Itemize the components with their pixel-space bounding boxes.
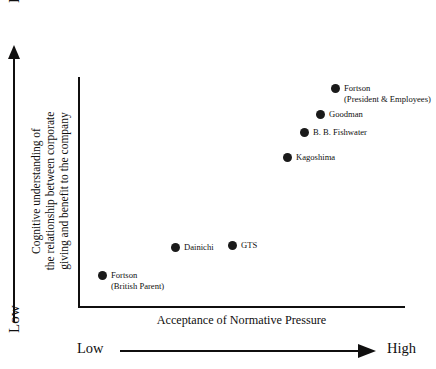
data-point-label: Goodman — [329, 109, 363, 120]
horizontal-scale-arrow-shaft — [120, 350, 360, 352]
data-point-fortson-president[interactable]: Fortson (President & Employees) — [331, 83, 431, 104]
data-point-label: Kagoshima — [296, 152, 335, 163]
data-point-kagoshima[interactable]: Kagoshima — [283, 152, 335, 163]
data-point-label: GTS — [241, 240, 257, 251]
data-point-label: Fortson (British Parent) — [111, 270, 164, 291]
horizontal-scale-low-label: Low — [77, 340, 104, 357]
data-point-label-line-1: Fortson — [111, 270, 137, 280]
marker-dot — [283, 153, 292, 162]
marker-dot — [98, 271, 107, 280]
data-point-label-line-1: Fortson — [344, 83, 370, 93]
data-point-fortson-british-parent[interactable]: Fortson (British Parent) — [98, 270, 164, 291]
data-point-label: Fortson (President & Employees) — [344, 83, 431, 104]
data-point-label-line-2: (British Parent) — [111, 281, 164, 292]
data-point-label-line-1: Kagoshima — [296, 152, 335, 162]
data-point-label-line-1: B. B. Fishwater — [313, 127, 367, 137]
data-point-bb-fishwater[interactable]: B. B. Fishwater — [300, 127, 367, 138]
marker-dot — [300, 128, 309, 137]
data-point-label: Dainichi — [184, 242, 214, 253]
x-axis-title: Acceptance of Normative Pressure — [78, 313, 405, 328]
data-point-goodman[interactable]: Goodman — [316, 109, 363, 120]
horizontal-scale-arrowhead-icon — [358, 344, 376, 358]
data-point-dainichi[interactable]: Dainichi — [171, 242, 214, 253]
data-point-label-line-1: Dainichi — [184, 242, 214, 252]
data-point-gts[interactable]: GTS — [228, 240, 257, 251]
marker-dot — [171, 243, 180, 252]
marker-dot — [331, 84, 340, 93]
marker-dot — [228, 241, 237, 250]
scatter-chart-figure: High Low Cognitive understanding of the … — [0, 0, 436, 369]
marker-dot — [316, 110, 325, 119]
data-point-label-line-1: Goodman — [329, 109, 363, 119]
data-point-label-line-2: (President & Employees) — [344, 94, 431, 105]
horizontal-scale-high-label: High — [387, 340, 416, 357]
data-point-label-line-1: GTS — [241, 240, 257, 250]
data-point-label: B. B. Fishwater — [313, 127, 367, 138]
